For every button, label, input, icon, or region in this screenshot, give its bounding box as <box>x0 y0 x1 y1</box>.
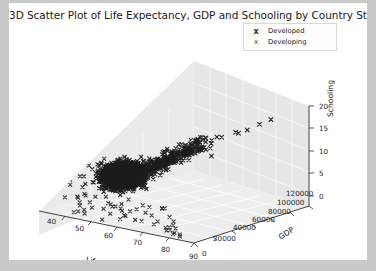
xtick-60: 60 <box>104 231 113 240</box>
plot-canvas <box>9 21 367 260</box>
xtick-40: 40 <box>47 217 56 226</box>
z-axis-label: Schooling <box>326 80 335 117</box>
xtick-50: 50 <box>75 224 84 233</box>
ytick-0: 0 <box>202 249 207 258</box>
chart-title: 3D Scatter Plot of Life Expectancy, GDP … <box>9 9 367 21</box>
matplotlib-figure: 3D Scatter Plot of Life Expectancy, GDP … <box>9 3 367 260</box>
screenshot-root: 3D Scatter Plot of Life Expectancy, GDP … <box>0 0 376 271</box>
ytick-60000: 60000 <box>252 215 275 224</box>
ytick-20000: 20000 <box>213 234 236 243</box>
ztick-15: 15 <box>319 124 328 133</box>
ztick-5: 5 <box>319 169 324 178</box>
ytick-100000: 100000 <box>277 198 304 207</box>
ytick-80000: 80000 <box>268 207 291 216</box>
axes-3d: 40 50 60 70 80 90 0 20000 40000 60000 80… <box>9 21 367 260</box>
xtick-90: 90 <box>189 252 198 260</box>
xtick-70: 70 <box>133 238 142 247</box>
ztick-10: 10 <box>319 147 328 156</box>
ztick-0: 0 <box>319 192 324 201</box>
ytick-120000: 120000 <box>286 189 313 198</box>
ytick-40000: 40000 <box>233 223 256 232</box>
xtick-80: 80 <box>161 245 170 254</box>
